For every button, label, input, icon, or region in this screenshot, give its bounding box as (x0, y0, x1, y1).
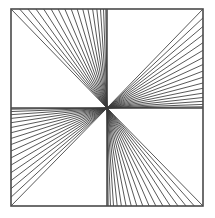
illusion-figure-container (0, 0, 215, 218)
radiating-lines-diagram (0, 0, 215, 218)
